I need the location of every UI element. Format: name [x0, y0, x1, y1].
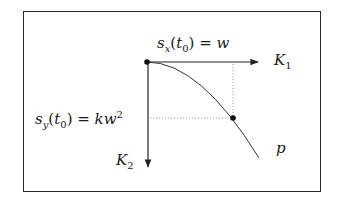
p-text: p	[276, 139, 286, 157]
sy-rhs: kw	[95, 110, 117, 128]
k2-sub: 2	[127, 160, 133, 171]
sx-equals: =	[194, 34, 216, 52]
k1-sub: 1	[285, 60, 291, 71]
sy-equals: =	[72, 110, 94, 128]
sx-rhs: w	[217, 34, 230, 52]
origin-point	[144, 59, 150, 65]
sy-label: sy(t0) = kw2	[35, 110, 123, 130]
sx-fn: s	[157, 34, 165, 52]
k2-var: K	[116, 151, 127, 169]
curve-p-label: p	[276, 141, 286, 156]
curve-p	[147, 62, 259, 158]
k2-label: K2	[116, 153, 134, 171]
k1-var: K	[274, 51, 285, 69]
diagram-canvas	[0, 0, 337, 204]
sx-label: sx(t0) = w	[157, 36, 229, 54]
marked-point	[230, 115, 236, 121]
k1-label: K1	[274, 53, 292, 71]
sy-fn: s	[35, 110, 43, 128]
sy-rhs-sup: 2	[117, 109, 123, 120]
